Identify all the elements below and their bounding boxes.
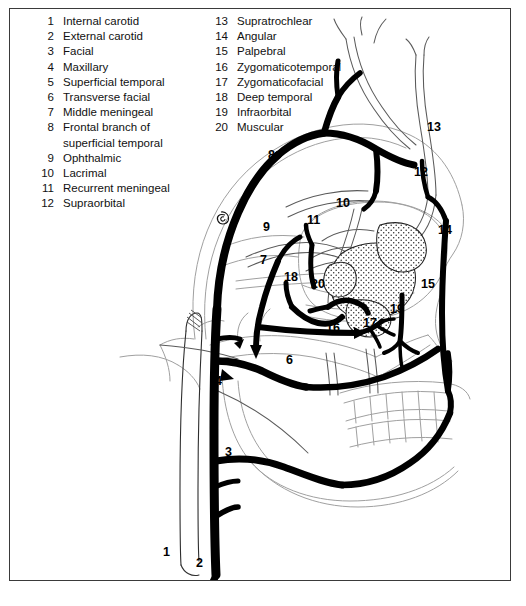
marker-palpebral: 15 [421,277,435,291]
foramen-spiral-detail [217,212,228,224]
marker-frontal-branch-superficial-temporal: 8 [268,148,275,162]
marker-supraorbital: 12 [414,165,428,179]
skull-outlines [120,124,470,507]
internal-carotid-vessel [180,313,202,576]
marker-zygomaticofacial: 17 [363,316,377,330]
marker-muscular: 20 [311,277,325,291]
marker-middle-meningeal: 7 [260,253,267,267]
marker-internal-carotid: 1 [163,545,170,559]
marker-maxillary: 4 [215,374,222,388]
marker-superficial-temporal: 5 [212,330,219,344]
marker-transverse-facial: 6 [286,353,293,367]
figure-plate: 1 Internal carotid 2 External carotid 3 … [0,0,526,606]
figure-number-markers: 1 2 3 4 5 6 7 8 9 10 11 12 13 14 15 16 1… [163,120,452,570]
marker-deep-temporal: 18 [284,270,298,284]
marker-facial: 3 [225,445,232,459]
marker-lacrimal: 10 [336,196,350,210]
marker-external-carotid: 2 [196,556,203,570]
marker-zygomaticotemporal: 16 [326,321,340,335]
marker-angular: 14 [438,223,452,237]
anatomical-diagram: 1 2 3 4 5 6 7 8 9 10 11 12 13 14 15 16 1… [10,9,516,580]
marker-infraorbital: 19 [390,302,404,316]
marker-supratrochlear: 13 [427,120,441,134]
marker-recurrent-meningeal: 11 [307,213,320,227]
marker-ophthalmic: 9 [263,220,270,234]
